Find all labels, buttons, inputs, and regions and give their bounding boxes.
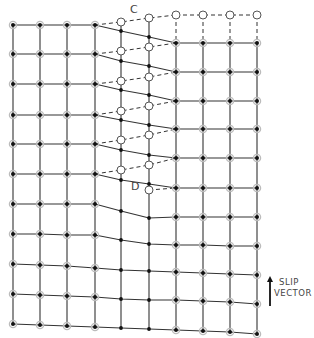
- atom-node: [147, 153, 151, 157]
- slip-vector-arrow-icon: [267, 276, 273, 306]
- atom-node: [147, 242, 151, 246]
- atom-node: [65, 202, 69, 206]
- atom-node: [38, 323, 42, 327]
- atom-node: [255, 41, 259, 45]
- open-atom: [117, 77, 125, 85]
- open-atom: [226, 11, 234, 19]
- atom-node: [38, 82, 42, 86]
- atom-node: [228, 70, 232, 74]
- lattice-row-line: [13, 25, 257, 43]
- atom-node: [228, 244, 232, 248]
- lattice-row-line: [13, 115, 257, 129]
- atom-node: [11, 82, 15, 86]
- atom-node: [147, 93, 151, 97]
- atom-node: [93, 295, 97, 299]
- atom-node: [11, 262, 15, 266]
- atom-node: [65, 142, 69, 146]
- atom-node: [255, 302, 259, 306]
- dislocation-lattice-diagram: [0, 0, 314, 338]
- slip-vector-label-line2: VECTOR: [274, 288, 312, 298]
- dashed-row-line: [95, 101, 176, 115]
- atom-node: [174, 298, 178, 302]
- open-atom: [117, 136, 125, 144]
- atom-node: [228, 215, 232, 219]
- atom-node: [11, 172, 15, 176]
- atom-node: [147, 123, 151, 127]
- lattice-row-line: [13, 234, 257, 246]
- atom-node: [119, 148, 123, 152]
- open-atom: [117, 18, 125, 26]
- atom-node: [65, 172, 69, 176]
- atom-node: [38, 52, 42, 56]
- atom-node: [65, 113, 69, 117]
- atom-node: [93, 82, 97, 86]
- atom-node: [38, 23, 42, 27]
- atom-node: [38, 113, 42, 117]
- atom-node: [228, 272, 232, 276]
- atom-node: [11, 23, 15, 27]
- atom-node: [65, 233, 69, 237]
- atom-node: [174, 270, 178, 274]
- atom-node: [65, 264, 69, 268]
- atom-node: [147, 216, 151, 220]
- atom-node: [119, 59, 123, 63]
- open-atom: [117, 47, 125, 55]
- atom-node: [65, 82, 69, 86]
- open-atom: [117, 107, 125, 115]
- atom-node: [255, 156, 259, 160]
- slip-vector-label-line1: SLIP: [279, 277, 299, 287]
- open-atom: [145, 14, 153, 22]
- lattice-row-line: [13, 294, 257, 304]
- atom-node: [174, 41, 178, 45]
- lattice-row-line: [13, 204, 257, 218]
- label-c: C: [130, 3, 138, 16]
- atom-node: [255, 70, 259, 74]
- atom-node: [65, 294, 69, 298]
- atom-node: [174, 127, 178, 131]
- lattice-row-line: [13, 324, 257, 334]
- atom-node: [147, 298, 151, 302]
- atom-node: [11, 52, 15, 56]
- atom-node: [11, 202, 15, 206]
- atom-node: [174, 328, 178, 332]
- atom-node: [93, 172, 97, 176]
- dashed-row-line: [95, 129, 176, 144]
- atom-node: [147, 327, 151, 331]
- atom-node: [38, 293, 42, 297]
- atom-node: [228, 300, 232, 304]
- atom-node: [201, 70, 205, 74]
- atom-node: [228, 99, 232, 103]
- atom-node: [93, 113, 97, 117]
- slip-vector-arrowhead-icon: [267, 276, 273, 282]
- atom-node: [174, 243, 178, 247]
- atom-node: [255, 127, 259, 131]
- atom-node: [228, 127, 232, 131]
- atom-node: [11, 232, 15, 236]
- open-atom: [145, 131, 153, 139]
- atom-node: [228, 156, 232, 160]
- atom-node: [147, 64, 151, 68]
- atom-node: [228, 186, 232, 190]
- open-atom: [145, 73, 153, 81]
- atom-node: [65, 324, 69, 328]
- open-atom: [117, 166, 125, 174]
- open-atom: [253, 11, 261, 19]
- atom-node: [119, 209, 123, 213]
- atom-node: [147, 182, 151, 186]
- atom-node: [201, 215, 205, 219]
- atom-node: [119, 29, 123, 33]
- open-atom: [145, 102, 153, 110]
- atom-node: [38, 202, 42, 206]
- atom-node: [93, 52, 97, 56]
- atom-node: [93, 325, 97, 329]
- atom-node: [119, 238, 123, 242]
- atom-node: [93, 233, 97, 237]
- dashed-row-line: [95, 72, 176, 84]
- atom-node: [255, 332, 259, 336]
- atom-node: [174, 186, 178, 190]
- atom-node: [201, 271, 205, 275]
- label-d: D: [131, 180, 140, 193]
- dashed-row-line: [95, 158, 176, 174]
- lattice-row-line: [13, 144, 257, 158]
- atom-node: [38, 172, 42, 176]
